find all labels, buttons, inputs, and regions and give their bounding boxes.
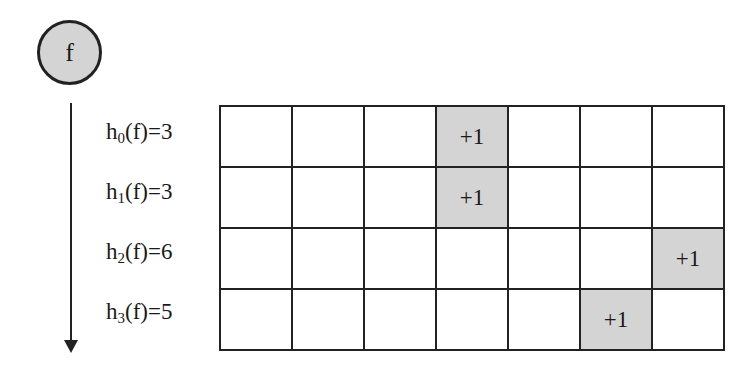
item-label: f <box>65 38 74 68</box>
grid-cell <box>652 106 724 167</box>
grid-cell <box>436 228 508 289</box>
grid-row: +1 <box>220 106 724 167</box>
hash-label-2: h2(f)=6 <box>106 238 172 272</box>
grid-row: +1 <box>220 228 724 289</box>
grid-row: +1 <box>220 167 724 228</box>
grid-cell <box>220 228 292 289</box>
grid-cell <box>508 167 580 228</box>
grid-cell <box>508 106 580 167</box>
grid-cell: +1 <box>652 228 724 289</box>
grid-cell <box>508 289 580 350</box>
grid-cell <box>292 106 364 167</box>
grid-cell <box>580 228 652 289</box>
grid-cell <box>508 228 580 289</box>
grid-cell <box>292 228 364 289</box>
grid-cell <box>220 106 292 167</box>
grid-cell: +1 <box>436 106 508 167</box>
hash-label-3: h3(f)=5 <box>106 298 172 332</box>
grid-cell <box>220 167 292 228</box>
hash-label-0: h0(f)=3 <box>106 118 172 152</box>
grid-cell <box>580 106 652 167</box>
grid-cell: +1 <box>580 289 652 350</box>
grid-cell <box>436 289 508 350</box>
grid-cell <box>652 289 724 350</box>
grid-cell: +1 <box>436 167 508 228</box>
arrow-down-icon <box>64 340 78 353</box>
grid-cell <box>580 167 652 228</box>
grid-row: +1 <box>220 289 724 350</box>
grid-cell <box>364 106 436 167</box>
grid-cell <box>292 289 364 350</box>
flow-arrow-line <box>70 103 72 341</box>
grid-cell <box>292 167 364 228</box>
grid-cell <box>364 167 436 228</box>
grid-cell <box>652 167 724 228</box>
grid-cell <box>364 289 436 350</box>
count-min-sketch-grid: +1+1+1+1 <box>219 105 725 351</box>
grid-cell <box>220 289 292 350</box>
grid-cell <box>364 228 436 289</box>
item-node: f <box>37 20 102 85</box>
hash-label-1: h1(f)=3 <box>106 178 172 212</box>
